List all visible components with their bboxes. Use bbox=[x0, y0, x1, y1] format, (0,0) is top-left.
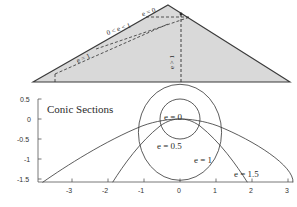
x-tick-label: 1 bbox=[213, 187, 217, 194]
y-ticks bbox=[38, 99, 42, 179]
cone-triangle bbox=[33, 5, 290, 82]
cone-label-hyperbola: e > 1 bbox=[169, 55, 176, 69]
x-tick-label: -1 bbox=[138, 187, 144, 194]
y-tick-label: 0.5 bbox=[20, 96, 30, 103]
curve-label-e15: e = 1.5 bbox=[234, 170, 259, 179]
x-tick-label: -3 bbox=[66, 187, 72, 194]
y-tick-label: 0 bbox=[27, 116, 31, 123]
curve-label-e0: e = 0 bbox=[164, 113, 182, 122]
plot-title: Conic Sections bbox=[47, 104, 113, 115]
x-tick-label: 3 bbox=[285, 187, 289, 194]
apex-marker bbox=[180, 13, 183, 16]
y-tick-label: -1.5 bbox=[17, 176, 29, 183]
x-tick-label: -2 bbox=[102, 187, 108, 194]
curve-label-e1: e = 1 bbox=[194, 156, 212, 165]
cone-diagram bbox=[33, 5, 290, 82]
y-tick-label: -0.5 bbox=[17, 136, 29, 143]
conic-plot bbox=[38, 84, 293, 182]
curve-label-e05: e = 0.5 bbox=[157, 142, 182, 151]
x-tick-label: 0 bbox=[177, 187, 181, 194]
x-tick-label: 2 bbox=[249, 187, 253, 194]
y-tick-label: -1 bbox=[24, 156, 30, 163]
